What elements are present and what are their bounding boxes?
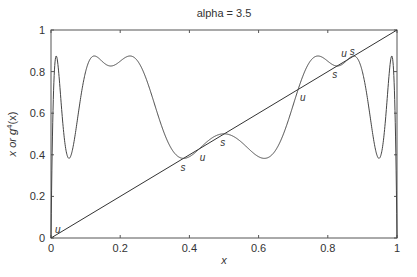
y-tick-label: 0.8 — [30, 66, 45, 78]
stable-point-label: s — [350, 46, 355, 57]
x-tick-label: 0 — [48, 242, 54, 254]
unstable-point-label: u — [55, 224, 61, 235]
chart-title: alpha = 3.5 — [197, 7, 252, 19]
y-tick-label: 0.4 — [30, 149, 45, 161]
x-tick-label: 1 — [394, 242, 400, 254]
y-tick-label: 0 — [39, 232, 45, 244]
unstable-point-label: u — [341, 48, 347, 59]
y-tick-label: 0.6 — [30, 107, 45, 119]
fixed-point-labels: usususus — [55, 46, 355, 235]
x-tick-label: 0.2 — [113, 242, 128, 254]
stable-point-label: s — [332, 69, 337, 80]
y-tick-label: 1 — [39, 24, 45, 36]
unstable-point-label: u — [200, 152, 206, 163]
x-axis-label: x — [220, 254, 227, 266]
y-axis-label: x or g4(x) — [5, 112, 18, 158]
x-tick-label: 0.6 — [251, 242, 266, 254]
unstable-point-label: u — [300, 92, 306, 103]
x-tick-label: 0.8 — [320, 242, 335, 254]
x-tick-label: 0.4 — [182, 242, 197, 254]
y-tick-label: 0.2 — [30, 190, 45, 202]
stable-point-label: s — [181, 162, 186, 173]
chart: alpha = 3.5 00.20.40.60.8100.20.40.60.81… — [0, 0, 417, 277]
stable-point-label: s — [220, 137, 225, 148]
